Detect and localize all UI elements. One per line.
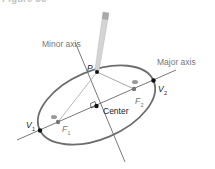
minor-axis-label: Minor axis bbox=[42, 39, 81, 49]
point-p bbox=[95, 70, 99, 74]
vertex-v2-point bbox=[151, 78, 155, 82]
pencil-icon bbox=[95, 12, 109, 71]
pin-f2-icon bbox=[132, 80, 138, 91]
f1-subscript: 1 bbox=[68, 130, 71, 136]
major-axis-label: Major axis bbox=[157, 57, 196, 67]
v1-subscript: 1 bbox=[32, 126, 35, 132]
v2-subscript: 2 bbox=[164, 90, 167, 96]
ellipse-diagram: Minor axis Major axis Center P V 1 V 2 F… bbox=[0, 0, 215, 169]
p-label: P bbox=[87, 63, 93, 73]
center-point bbox=[94, 104, 98, 108]
vertex-v1-point bbox=[38, 128, 42, 132]
string-p-f2 bbox=[97, 72, 134, 89]
center-label: Center bbox=[103, 106, 129, 116]
string-p-f1 bbox=[58, 72, 97, 122]
f2-subscript: 2 bbox=[141, 102, 144, 108]
